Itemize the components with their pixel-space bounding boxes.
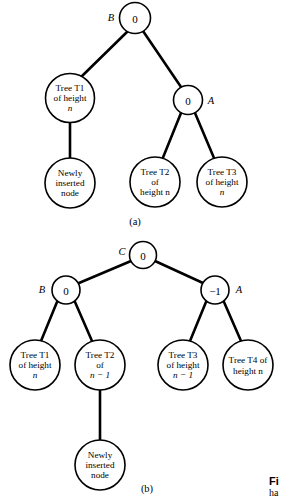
node-b-tree-t2-line3: n − 1 (90, 370, 110, 380)
figure-caption-line1: Fi (269, 476, 299, 488)
node-a-tree-t1-line1: Tree T1 (56, 83, 85, 93)
edge-b-root-to-b (79, 261, 131, 283)
edge-a-a-to-t2 (162, 113, 181, 160)
node-b-root-value: 0 (140, 250, 146, 262)
node-a-tree-t3[interactable]: Tree T3 of height n (197, 157, 247, 207)
node-a-root[interactable]: 0 B (108, 3, 151, 34)
node-b-tree-t4-line2: height n (233, 366, 263, 376)
node-a-right[interactable]: 0 A (174, 86, 215, 115)
figure-caption-line2: ha (269, 488, 299, 499)
node-b-left[interactable]: 0 B (39, 276, 80, 304)
node-b-newly-inserted[interactable]: Newly inserted node (75, 440, 125, 490)
node-a-newly-inserted-line1: Newly (58, 168, 83, 178)
node-b-tree-t2-line1: Tree T2 (86, 350, 115, 360)
figure-caption: Fi ha (269, 476, 299, 498)
node-b-tree-t4-circle (223, 340, 273, 390)
node-a-right-side-label: A (207, 95, 215, 106)
node-b-tree-t4[interactable]: Tree T4 of height n (223, 340, 273, 390)
node-a-tree-t1-line3: n (68, 103, 73, 113)
avl-rotation-figure: 0 B Tree T1 of height n 0 A Newly insert… (0, 0, 299, 500)
node-b-tree-t4-line1: Tree T4 of (229, 355, 269, 365)
edge-b-a-to-t3 (190, 302, 206, 341)
node-a-tree-t3-line3: n (220, 187, 225, 197)
node-b-tree-t2[interactable]: Tree T2 of n − 1 (75, 340, 125, 390)
node-b-newly-inserted-line2: inserted (85, 460, 114, 470)
node-b-newly-inserted-line3: node (91, 470, 109, 480)
node-a-tree-t2-line2: of (151, 177, 160, 187)
node-b-tree-t3[interactable]: Tree T3 of height n − 1 (158, 340, 208, 390)
node-b-tree-t1[interactable]: Tree T1 of height n (10, 340, 60, 390)
node-a-newly-inserted-line3: node (61, 188, 79, 198)
edge-b-a-to-t4 (224, 302, 241, 341)
edge-b-b-to-t1 (41, 302, 57, 341)
part-a-label: (a) (129, 216, 141, 228)
node-a-tree-t3-line1: Tree T3 (208, 167, 237, 177)
edge-b-b-to-t2 (75, 302, 92, 341)
node-a-tree-t2[interactable]: Tree T2 of height n (130, 157, 180, 207)
node-b-tree-t1-line3: n (33, 370, 38, 380)
node-b-tree-t3-line3: n − 1 (173, 370, 193, 380)
node-b-tree-t2-line2: of (96, 360, 105, 370)
node-a-root-side-label: B (108, 12, 115, 23)
node-b-right[interactable]: −1 A (201, 276, 243, 304)
edge-a-a-to-t3 (195, 113, 214, 158)
part-b-label: (b) (141, 483, 154, 495)
node-b-left-value: 0 (63, 285, 69, 297)
node-a-tree-t3-line2: of height (206, 177, 239, 187)
node-b-right-side-label: A (235, 284, 243, 295)
node-a-root-value: 0 (132, 13, 138, 25)
node-a-newly-inserted-line2: inserted (55, 178, 84, 188)
node-b-tree-t1-line1: Tree T1 (21, 350, 50, 360)
node-b-root-side-label: C (118, 246, 126, 257)
node-b-newly-inserted-line1: Newly (88, 450, 113, 460)
node-b-right-value: −1 (209, 285, 221, 297)
node-b-left-side-label: B (39, 284, 46, 295)
node-a-right-value: 0 (185, 95, 191, 107)
edge-a-root-to-t1 (80, 31, 128, 78)
node-a-tree-t1-line2: of height (54, 93, 87, 103)
node-b-tree-t1-line2: of height (19, 360, 52, 370)
node-a-tree-t2-line3: height n (140, 187, 170, 197)
node-a-newly-inserted[interactable]: Newly inserted node (45, 158, 95, 208)
node-a-tree-t2-line1: Tree T2 (141, 167, 170, 177)
edge-b-root-to-a (155, 261, 203, 283)
edge-a-root-to-a (143, 31, 181, 87)
node-a-tree-t1[interactable]: Tree T1 of height n (46, 74, 95, 123)
tree-diagram-canvas: 0 B Tree T1 of height n 0 A Newly insert… (0, 0, 299, 500)
node-b-tree-t3-line2: of height (167, 360, 200, 370)
node-b-tree-t3-line1: Tree T3 (169, 350, 198, 360)
